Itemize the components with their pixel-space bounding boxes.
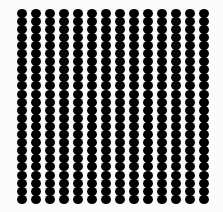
dot <box>115 195 125 204</box>
dot <box>17 195 27 204</box>
dot <box>185 195 195 204</box>
dot <box>199 195 209 204</box>
dot <box>157 195 167 204</box>
dot <box>87 195 97 204</box>
dot <box>129 195 139 204</box>
dot <box>73 195 83 204</box>
dot-grid <box>0 0 223 212</box>
dot <box>143 195 153 204</box>
dot <box>171 195 181 204</box>
dot <box>31 195 41 204</box>
dot <box>101 195 111 204</box>
dot <box>59 195 69 204</box>
dot <box>45 195 55 204</box>
